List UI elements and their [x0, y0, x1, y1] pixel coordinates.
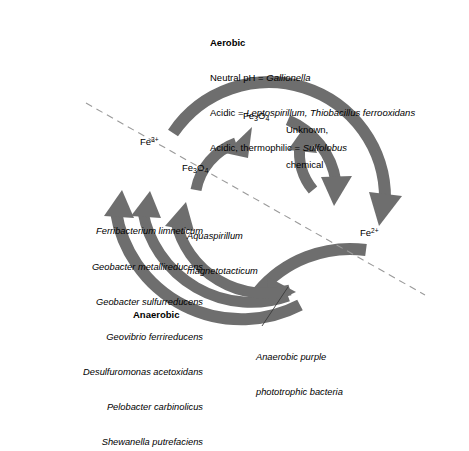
- species-item: Geovibrio ferrireducens: [83, 332, 203, 344]
- species-item: Shewanella putrefaciens: [83, 437, 203, 449]
- aerobic-line-neutral: Neutral pH = Gallionella: [210, 72, 415, 84]
- label-ferrous-iron: Fe2+: [360, 227, 379, 238]
- species-item: Geobacter sulfurreducens: [83, 297, 203, 309]
- label-magnetite-lower: Fe3O4: [182, 162, 208, 174]
- label-magnetite-upper: Fe3O4: [243, 110, 269, 122]
- anaerobic-heading: Anaerobic: [133, 309, 179, 320]
- species-item: Pelobacter carbinolicus: [83, 402, 203, 414]
- annotation-aquaspirillum: Aquaspirillum magnetotacticum: [187, 208, 258, 289]
- annotation-line: chemical: [286, 159, 328, 171]
- iron-reducing-species-list: Ferribacterium limneticum Geobacter meta…: [83, 203, 203, 451]
- organism-names: Gallionella: [266, 72, 310, 83]
- annotation-line: phototrophic bacteria: [256, 387, 343, 399]
- species-item: Geobacter metallireducens: [83, 262, 203, 274]
- annotation-line: Anaerobic purple: [256, 352, 343, 364]
- annotation-unknown-chemical: Unknown, chemical: [286, 101, 328, 182]
- annotation-line: Unknown,: [286, 124, 328, 136]
- label-ferric-iron: Fe3+: [140, 136, 159, 147]
- annotation-line: magnetotacticum: [187, 266, 258, 278]
- aerobic-heading: Aerobic: [210, 37, 415, 49]
- species-item: Desulfuromonas acetoxidans: [83, 367, 203, 379]
- annotation-line: Aquaspirillum: [187, 231, 258, 243]
- annotation-purple-phototrophic-bacteria: Anaerobic purple phototrophic bacteria: [256, 329, 343, 410]
- organism-names: Leptospirillum, Thiobacillus ferrooxidan…: [246, 107, 415, 118]
- species-item: Ferribacterium limneticum: [83, 226, 203, 238]
